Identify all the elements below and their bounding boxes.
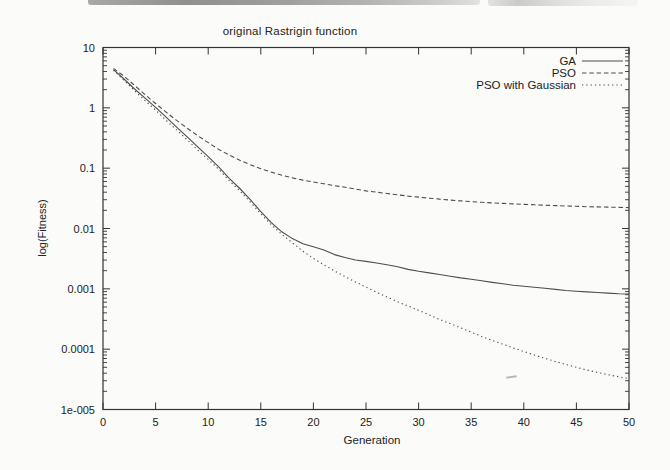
x-tick-label: 0 bbox=[88, 415, 118, 429]
y-tick-label: 0.001 bbox=[29, 282, 95, 296]
series-line-pso-with-gaussian bbox=[114, 70, 630, 378]
x-tick-label: 15 bbox=[246, 415, 276, 429]
scanned-figure-page: original Rastrigin function log(Fitness)… bbox=[0, 0, 670, 470]
legend-item-pso: PSO bbox=[393, 67, 623, 79]
x-tick-label: 5 bbox=[141, 415, 171, 429]
series-line-ga bbox=[114, 70, 630, 294]
legend-label-pso-gaussian: PSO with Gaussian bbox=[476, 79, 576, 91]
legend-label-ga: GA bbox=[559, 55, 576, 67]
legend: GA PSO PSO with Gaussian bbox=[393, 55, 623, 91]
x-tick-label: 20 bbox=[298, 415, 328, 429]
y-tick-label: 0.01 bbox=[29, 222, 95, 236]
legend-item-pso-gaussian: PSO with Gaussian bbox=[393, 79, 623, 91]
x-tick-label: 25 bbox=[351, 415, 381, 429]
x-tick-label: 50 bbox=[614, 415, 644, 429]
x-tick-label: 35 bbox=[456, 415, 486, 429]
y-tick-label: 1 bbox=[29, 101, 95, 115]
x-tick-label: 40 bbox=[509, 415, 539, 429]
legend-item-ga: GA bbox=[393, 55, 623, 67]
legend-sample-solid-line bbox=[582, 57, 623, 65]
legend-label-pso: PSO bbox=[552, 67, 576, 79]
y-tick-label: 0.0001 bbox=[29, 342, 95, 356]
legend-sample-dashed-line bbox=[582, 69, 623, 77]
legend-sample-dotted-line bbox=[582, 81, 623, 89]
y-tick-label: 10 bbox=[29, 41, 95, 55]
plot-border bbox=[103, 48, 629, 410]
y-tick-label: 0.1 bbox=[29, 161, 95, 175]
y-tick-label: 1e-005 bbox=[29, 403, 95, 417]
x-tick-label: 30 bbox=[404, 415, 434, 429]
x-tick-label: 45 bbox=[561, 415, 591, 429]
x-tick-label: 10 bbox=[193, 415, 223, 429]
